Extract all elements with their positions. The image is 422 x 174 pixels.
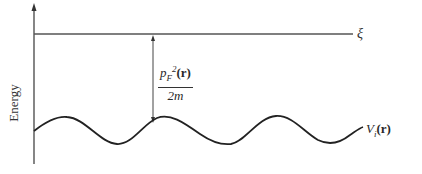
y-axis-arrow-icon	[32, 3, 37, 11]
potential-wave	[34, 116, 363, 144]
potential-symbol: V	[366, 121, 374, 136]
arrow-up-icon	[151, 35, 155, 41]
fermi-subscript: F	[167, 73, 173, 83]
kinetic-energy-label: pF2(r) 2m	[158, 62, 193, 103]
potential-label: Vi(r)	[366, 121, 391, 139]
fraction-denominator: 2m	[158, 88, 193, 103]
fraction-numerator: pF2(r)	[158, 62, 193, 88]
y-axis-label: Energy	[6, 81, 22, 125]
fermi-level-label: ξ	[357, 26, 363, 42]
position-argument: (r)	[177, 65, 191, 80]
potential-argument: (r)	[376, 121, 390, 136]
